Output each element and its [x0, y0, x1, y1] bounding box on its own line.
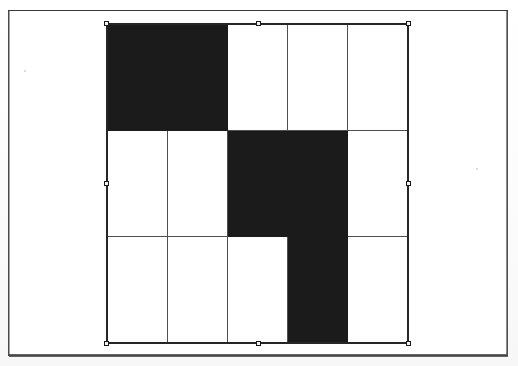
grid-cell-r1-c3[interactable] [228, 25, 288, 131]
handle-top-center[interactable] [256, 21, 261, 26]
grid-cell-r1-c1[interactable] [108, 25, 168, 131]
handle-bottom-left[interactable] [104, 341, 109, 346]
handle-top-left[interactable] [104, 21, 109, 26]
grid-cell-r3-c5[interactable] [348, 237, 408, 343]
grid-cell-r3-c4[interactable] [288, 237, 348, 343]
grid-cell-r1-c5[interactable] [348, 25, 408, 131]
grid-cell-r1-c4[interactable] [288, 25, 348, 131]
grid-cell-r2-c5[interactable] [348, 131, 408, 237]
grid-row [108, 25, 408, 131]
grid-cell-r2-c3[interactable] [228, 131, 288, 237]
grid-row [108, 237, 408, 343]
scan-canvas [0, 0, 518, 366]
selected-grid-object[interactable] [107, 24, 408, 343]
handle-middle-left[interactable] [104, 181, 109, 186]
pattern-grid[interactable] [107, 24, 408, 343]
grid-cell-r3-c2[interactable] [168, 237, 228, 343]
frame-left-edge [8, 11, 10, 355]
grid-cell-r3-c1[interactable] [108, 237, 168, 343]
frame-bottom-edge [9, 354, 508, 357]
handle-middle-right[interactable] [406, 181, 411, 186]
grid-cell-r1-c2[interactable] [168, 25, 228, 131]
grid-cell-r2-c4[interactable] [288, 131, 348, 237]
grid-cell-r3-c3[interactable] [228, 237, 288, 343]
handle-bottom-center[interactable] [256, 341, 261, 346]
handle-top-right[interactable] [406, 21, 411, 26]
frame-right-edge [506, 11, 508, 356]
grid-row [108, 131, 408, 237]
grid-cell-r2-c2[interactable] [168, 131, 228, 237]
grid-cell-r2-c1[interactable] [108, 131, 168, 237]
handle-bottom-right[interactable] [406, 341, 411, 346]
grid-body [108, 25, 408, 343]
